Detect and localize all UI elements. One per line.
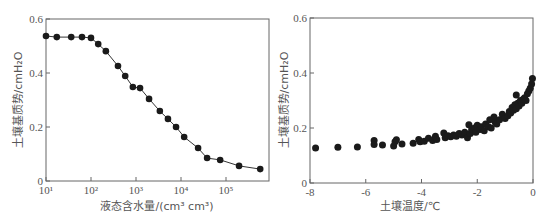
left-axis-ticks: 10¹10²10³10⁴10⁵00.20.40.6 (29, 13, 233, 196)
right-data-points (312, 75, 536, 152)
y-tick-label: 0.2 (29, 121, 43, 133)
data-point (195, 145, 202, 152)
x-tick-label: -4 (417, 186, 427, 198)
data-point (433, 136, 440, 143)
data-point (95, 41, 102, 48)
data-point (137, 85, 144, 92)
right-plot-frame (310, 18, 533, 183)
figure: 10¹10²10³10⁴10⁵00.20.40.6 液态含水量/(cm³ cm³… (0, 0, 551, 220)
y-tick-label: 0.6 (293, 12, 307, 24)
data-point (103, 48, 110, 55)
data-point (165, 116, 172, 123)
left-x-axis-label: 液态含水量/(cm³ cm³) (100, 199, 213, 213)
data-point (523, 97, 530, 104)
y-tick-label: 0.6 (29, 13, 43, 25)
data-point (68, 34, 75, 41)
data-point (257, 166, 264, 173)
data-point (312, 145, 319, 152)
left-y-axis-label: 土壤基质势/cmH₂O (11, 51, 25, 148)
x-tick-label: 10⁴ (174, 184, 189, 196)
data-point (146, 96, 153, 103)
data-point (54, 34, 61, 41)
data-point (529, 75, 536, 82)
data-point (236, 163, 243, 170)
data-point (181, 134, 188, 141)
right-chart: -8-6-4-2000.20.40.6 土壤温度/℃ 土壤基质势/cmH₂O (277, 12, 536, 213)
y-tick-label: 0.2 (293, 122, 307, 134)
data-point (157, 108, 164, 115)
data-point (204, 155, 211, 162)
data-point (173, 124, 180, 131)
data-point (88, 35, 95, 42)
data-point (122, 73, 129, 80)
right-y-axis-label: 土壤基质势/cmH₂O (277, 51, 291, 148)
data-point (79, 34, 86, 41)
x-tick-label: -2 (473, 186, 482, 198)
data-point (393, 136, 400, 143)
y-tick-label: 0.4 (29, 67, 43, 79)
left-fit-curve (46, 36, 260, 169)
x-tick-label: -6 (361, 186, 371, 198)
x-tick-label: 10² (84, 184, 99, 196)
left-plot-frame (46, 19, 269, 181)
x-tick-label: 0 (530, 186, 536, 198)
data-point (488, 125, 495, 132)
data-point (398, 140, 405, 147)
x-tick-label: 10³ (129, 184, 144, 196)
data-point (513, 92, 520, 99)
x-tick-label: 10⁵ (219, 184, 234, 196)
data-point (379, 142, 386, 149)
y-tick-label: 0.4 (293, 67, 307, 79)
data-point (43, 33, 50, 40)
data-point (130, 84, 137, 91)
data-point (334, 144, 341, 151)
y-tick-label: 0 (38, 175, 44, 187)
y-tick-label: 0 (302, 177, 308, 189)
left-data-points (43, 33, 264, 173)
right-x-axis-label: 土壤温度/℃ (380, 199, 440, 213)
right-axis-ticks: -8-6-4-2000.20.40.6 (293, 12, 536, 198)
data-point (217, 157, 224, 164)
data-point (115, 63, 122, 70)
data-point (354, 143, 361, 150)
data-point (371, 141, 378, 148)
left-chart: 10¹10²10³10⁴10⁵00.20.40.6 液态含水量/(cm³ cm³… (11, 13, 269, 213)
